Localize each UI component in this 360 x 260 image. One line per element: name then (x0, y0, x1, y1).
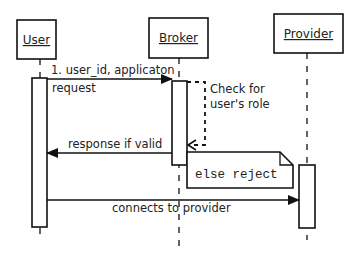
note-text: else reject (195, 168, 278, 182)
message-request-label-line2: request (52, 81, 96, 95)
activation-broker (172, 81, 187, 165)
activation-provider (299, 165, 315, 228)
participant-broker-label: Broker (159, 31, 198, 45)
message-connect: connects to provider (47, 200, 299, 215)
message-response-label: response if valid (68, 137, 162, 151)
sequence-diagram: User Broker Provider 1. user_id, applica… (0, 0, 360, 260)
note-else-reject: else reject (187, 152, 293, 188)
participant-provider-label: Provider (284, 27, 333, 41)
participant-broker: Broker (149, 18, 208, 58)
activation-user (32, 78, 47, 227)
message-request-label-line1: 1. user_id, applicaton (51, 63, 175, 77)
message-self-check-label-line2: user's role (210, 97, 270, 111)
message-self-check: Check for user's role (187, 82, 270, 150)
message-self-check-label-line1: Check for (210, 82, 265, 96)
message-connect-label: connects to provider (112, 201, 231, 215)
participant-provider: Provider (274, 14, 343, 53)
message-response: response if valid (47, 137, 172, 153)
message-request: 1. user_id, applicaton request (47, 63, 175, 95)
participant-user: User (17, 20, 56, 59)
participant-user-label: User (23, 33, 50, 47)
